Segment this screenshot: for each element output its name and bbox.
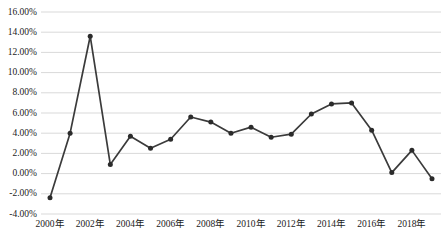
data-point bbox=[188, 115, 193, 120]
data-point bbox=[430, 176, 435, 181]
y-axis-tick-label: 4.00% bbox=[12, 128, 37, 138]
data-point bbox=[68, 131, 73, 136]
data-point bbox=[88, 34, 93, 39]
data-point bbox=[409, 148, 414, 153]
data-point-markers bbox=[48, 34, 435, 201]
data-point bbox=[349, 100, 354, 105]
data-point bbox=[168, 137, 173, 142]
data-point bbox=[249, 125, 254, 130]
line-chart: 16.00%14.00%12.00%10.00%8.00%6.00%4.00%2… bbox=[0, 0, 446, 239]
y-axis-tick-label: 16.00% bbox=[8, 7, 37, 17]
data-point bbox=[389, 170, 394, 175]
y-axis-tick-label: 0.00% bbox=[12, 168, 37, 178]
x-axis-tick-label: 2018年 bbox=[382, 219, 442, 230]
data-point bbox=[228, 131, 233, 136]
y-axis-tick-label: 12.00% bbox=[8, 47, 37, 57]
y-axis-tick-label: 6.00% bbox=[12, 108, 37, 118]
chart-plot-area bbox=[0, 0, 446, 239]
data-point bbox=[269, 135, 274, 140]
y-axis-tick-label: -2.00% bbox=[9, 188, 37, 198]
data-point bbox=[148, 146, 153, 151]
data-point bbox=[108, 162, 113, 167]
data-point bbox=[329, 101, 334, 106]
gridlines bbox=[41, 12, 441, 214]
y-axis-tick-label: -4.00% bbox=[9, 209, 37, 219]
data-point bbox=[48, 195, 53, 200]
data-point bbox=[128, 134, 133, 139]
data-point bbox=[309, 112, 314, 117]
data-point bbox=[289, 132, 294, 137]
y-axis-tick-label: 2.00% bbox=[12, 148, 37, 158]
data-point bbox=[208, 120, 213, 125]
data-point bbox=[369, 128, 374, 133]
y-axis-tick-label: 8.00% bbox=[12, 87, 37, 97]
y-axis-tick-label: 14.00% bbox=[8, 27, 37, 37]
y-axis-tick-label: 10.00% bbox=[8, 67, 37, 77]
